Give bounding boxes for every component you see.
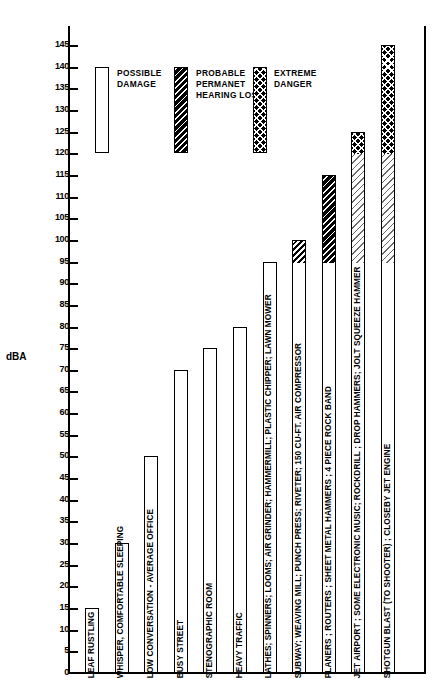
y-tick-label: 100 — [55, 235, 69, 244]
y-tick-mark — [70, 327, 78, 329]
y-tick-mark — [70, 586, 78, 588]
y-tick-label: 145 — [55, 40, 69, 49]
y-tick-mark — [70, 630, 78, 632]
y-tick-label: 120 — [55, 148, 69, 157]
bar-label-4: STENOGRAPHIC ROOM — [206, 583, 214, 678]
y-tick-label: 135 — [55, 83, 69, 92]
bar-label-8: PLANERS ; ROUTERS ; SHEET METAL HAMMERS … — [324, 386, 332, 678]
bar-label-10: SHOTGUN BLAST (TO SHOOTER) ; CLOSEBY JET… — [384, 444, 392, 679]
y-tick-mark — [70, 543, 78, 545]
bar-9-segment-probable-permanent-hearing-loss — [352, 154, 364, 262]
y-tick-mark — [70, 500, 78, 502]
y-tick-mark — [70, 110, 78, 112]
bar-label-1: WHISPER, COMFORTABLE SLEEPING — [117, 526, 125, 678]
y-tick-label: 60 — [60, 408, 69, 417]
legend-label-possible-damage: POSSIBLE DAMAGE — [117, 68, 162, 90]
y-tick-mark — [70, 153, 78, 155]
y-tick-mark — [70, 283, 78, 285]
legend-swatch-possible-damage — [95, 67, 109, 154]
y-tick-label: 105 — [55, 213, 69, 222]
y-tick-mark — [70, 67, 78, 69]
y-tick-mark — [70, 456, 78, 458]
y-tick-mark — [70, 197, 78, 199]
bar-label-7: SUBWAY; WEAVING MILL; PUNCH PRESS; RIVET… — [295, 343, 303, 678]
bar-10-segment-probable-permanent-hearing-loss — [382, 154, 394, 262]
y-tick-label: 95 — [60, 257, 69, 266]
y-tick-label: 30 — [60, 538, 69, 547]
y-tick-label: 25 — [60, 560, 69, 569]
y-tick-mark — [70, 348, 78, 350]
y-tick-mark — [70, 391, 78, 393]
y-tick-mark — [70, 305, 78, 307]
bar-7-segment-probable-permanent-hearing-loss — [293, 241, 305, 263]
bar-8-segment-probable-permanent-hearing-loss — [323, 176, 335, 263]
y-tick-label: 140 — [55, 62, 69, 71]
y-tick-label: 130 — [55, 105, 69, 114]
y-tick-mark — [70, 218, 78, 220]
y-tick-label: 90 — [60, 278, 69, 287]
y-tick-label: 85 — [60, 300, 69, 309]
y-tick-mark — [70, 45, 78, 47]
y-axis-title: dBA — [6, 351, 27, 362]
bar-9-segment-extreme-danger — [352, 133, 364, 155]
y-tick-label: 45 — [60, 473, 69, 482]
y-tick-mark — [70, 370, 78, 372]
y-tick-label: 5 — [64, 646, 69, 655]
y-tick-mark — [70, 608, 78, 610]
y-tick-mark — [70, 651, 78, 653]
bar-label-6: LATHES; SPINNERS; LOOMS; AIR GRINDER; HA… — [265, 294, 273, 678]
bar-label-9: JET AIRPORT ; SOME ELECTRONIC MUSIC; ROC… — [354, 266, 362, 678]
y-tick-label: 70 — [60, 365, 69, 374]
bar-label-5: HEAVY TRAFFIC — [236, 612, 244, 678]
y-tick-mark — [70, 262, 78, 264]
y-tick-mark — [70, 478, 78, 480]
bar-label-2: LOW CONVERSATION - AVERAGE OFFICE — [147, 509, 155, 678]
y-tick-label: 10 — [60, 625, 69, 634]
y-tick-mark — [70, 88, 78, 90]
y-tick-label: 35 — [60, 516, 69, 525]
y-tick-label: 40 — [60, 495, 69, 504]
noise-level-chart: dBA 145140135130125120115110105100959085… — [0, 0, 443, 688]
y-tick-mark — [70, 132, 78, 134]
bar-10-segment-extreme-danger — [382, 46, 394, 154]
bar-label-0: LEAF RUSTLING — [88, 611, 96, 678]
legend-swatch-probable-permanent-hearing-loss — [174, 67, 188, 154]
y-tick-mark — [70, 521, 78, 523]
legend-swatch-extreme-danger — [253, 67, 267, 154]
y-tick-label: 50 — [60, 451, 69, 460]
legend-label-extreme-danger: EXTREME DANGER — [274, 68, 317, 90]
y-tick-label: 0 — [64, 668, 69, 677]
y-tick-label: 65 — [60, 386, 69, 395]
y-tick-label: 20 — [60, 581, 69, 590]
y-tick-mark — [70, 175, 78, 177]
y-tick-label: 125 — [55, 127, 69, 136]
y-tick-label: 115 — [55, 170, 69, 179]
y-tick-mark — [70, 240, 78, 242]
y-tick-label: 55 — [60, 430, 69, 439]
y-tick-label: 75 — [60, 343, 69, 352]
bar-label-3: BUSY STREET — [176, 620, 184, 678]
y-tick-label: 80 — [60, 322, 69, 331]
y-tick-label: 15 — [60, 603, 69, 612]
y-tick-mark — [70, 413, 78, 415]
y-tick-mark — [70, 565, 78, 567]
axis-line-right — [424, 26, 426, 674]
y-tick-label: 110 — [55, 192, 69, 201]
y-tick-mark — [70, 435, 78, 437]
